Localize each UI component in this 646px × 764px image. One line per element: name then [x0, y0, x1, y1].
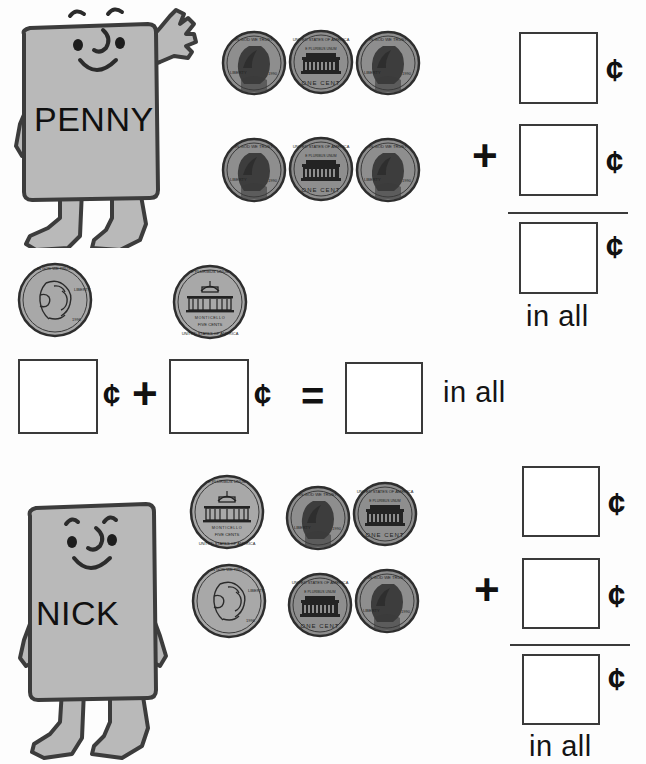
svg-text:1990: 1990: [268, 178, 278, 183]
svg-text:UNITED STATES OF AMERICA: UNITED STATES OF AMERICA: [293, 37, 350, 42]
answer-box-p2-addend-1[interactable]: [18, 359, 98, 434]
svg-text:E PLURIBUS UNUM: E PLURIBUS UNUM: [191, 269, 230, 274]
svg-text:FIVE CENTS: FIVE CENTS: [198, 322, 223, 327]
answer-box-p2-addend-2[interactable]: [169, 359, 249, 434]
cent-symbol: ¢: [606, 232, 623, 263]
cent-symbol: ¢: [608, 489, 625, 520]
coin-penny-reverse: UNITED STATES OF AMERICA E PLURIBUS UNUM…: [288, 29, 354, 99]
coin-nickel-obverse: IN GOD WE TRUST LIBERTY 1996: [190, 562, 268, 644]
cent-symbol: ¢: [608, 664, 625, 695]
svg-text:LIBERTY: LIBERTY: [364, 177, 381, 182]
in-all-label: in all: [526, 302, 589, 331]
coin-penny-reverse: UNITED STATES OF AMERICA E PLURIBUS UNUM…: [288, 136, 354, 206]
nick-eye-left: [67, 536, 77, 548]
coin-penny-obverse: IN GOD WE TRUST LIBERTY 1990: [354, 568, 420, 638]
nick-eye-right: [107, 534, 117, 546]
penny-eye-right: [115, 37, 125, 49]
coin-penny-reverse: UNITED STATES OF AMERICA E PLURIBUS UNUM…: [287, 572, 353, 642]
svg-text:LIBERTY: LIBERTY: [230, 177, 247, 182]
svg-text:IN GOD WE TRUST: IN GOD WE TRUST: [235, 37, 273, 42]
svg-text:UNITED STATES OF AMERICA: UNITED STATES OF AMERICA: [357, 489, 414, 494]
svg-text:LIBERTY: LIBERTY: [294, 525, 311, 530]
coin-penny-obverse: IN GOD WE TRUST LIBERTY 1990: [221, 30, 287, 100]
svg-text:1990: 1990: [401, 609, 411, 614]
coin-penny-reverse: UNITED STATES OF AMERICA E PLURIBUS UNUM…: [352, 481, 418, 551]
cent-symbol: ¢: [606, 147, 623, 178]
cent-symbol: ¢: [254, 380, 271, 411]
answer-box-p3-addend-2[interactable]: [522, 558, 600, 629]
svg-text:UNITED STATES OF AMERICA: UNITED STATES OF AMERICA: [292, 580, 349, 585]
svg-text:IN GOD WE TRUST: IN GOD WE TRUST: [235, 144, 273, 149]
svg-text:IN GOD WE TRUST: IN GOD WE TRUST: [369, 144, 407, 149]
svg-text:IN GOD WE TRUST: IN GOD WE TRUST: [37, 266, 74, 271]
svg-text:LIBERTY: LIBERTY: [363, 608, 380, 613]
character-penny: PENNY: [8, 4, 208, 248]
in-all-label: in all: [529, 732, 592, 761]
svg-text:1990: 1990: [402, 71, 412, 76]
character-nick: NICK: [10, 478, 200, 760]
coin-nickel-reverse: E PLURIBUS UNUM MONTICELLO FIVE CENTS UN…: [171, 263, 249, 345]
coin-penny-obverse: IN GOD WE TRUST LIBERTY 1990: [285, 485, 351, 555]
svg-text:E PLURIBUS UNUM: E PLURIBUS UNUM: [369, 499, 400, 503]
answer-box-p3-addend-1[interactable]: [522, 466, 600, 537]
coin-nickel-obverse: IN GOD WE TRUST LIBERTY 1996: [16, 261, 94, 343]
svg-text:IN GOD WE TRUST: IN GOD WE TRUST: [211, 567, 248, 572]
svg-text:E PLURIBUS UNUM: E PLURIBUS UNUM: [305, 154, 336, 158]
answer-box-p1-sum[interactable]: [519, 222, 598, 294]
penny-eye-left: [73, 39, 83, 51]
svg-text:E PLURIBUS UNUM: E PLURIBUS UNUM: [208, 479, 247, 484]
svg-text:IN GOD WE TRUST: IN GOD WE TRUST: [299, 492, 337, 497]
svg-text:1990: 1990: [402, 178, 412, 183]
svg-text:E PLURIBUS UNUM: E PLURIBUS UNUM: [305, 47, 336, 51]
equals-symbol: =: [301, 376, 324, 416]
svg-text:LIBERTY: LIBERTY: [74, 287, 91, 292]
character-name-nick: NICK: [36, 594, 119, 633]
character-name-penny: PENNY: [34, 100, 154, 139]
svg-text:ONE CENT: ONE CENT: [365, 532, 404, 538]
svg-text:MONTICELLO: MONTICELLO: [212, 526, 243, 530]
svg-text:1996: 1996: [72, 317, 82, 322]
svg-text:LIBERTY: LIBERTY: [230, 70, 247, 75]
svg-text:1996: 1996: [246, 618, 256, 623]
cent-symbol: ¢: [606, 55, 623, 86]
coin-nickel-reverse: E PLURIBUS UNUM MONTICELLO FIVE CENTS UN…: [188, 473, 266, 555]
coin-penny-obverse: IN GOD WE TRUST LIBERTY 1990: [355, 137, 421, 207]
plus-symbol: +: [472, 134, 498, 178]
svg-text:1990: 1990: [332, 526, 342, 531]
in-all-label: in all: [443, 378, 506, 407]
answer-box-p1-addend-1[interactable]: [519, 32, 598, 104]
svg-text:ONE CENT: ONE CENT: [301, 80, 340, 86]
coin-penny-obverse: IN GOD WE TRUST LIBERTY 1990: [221, 137, 287, 207]
svg-text:ONE CENT: ONE CENT: [301, 187, 340, 193]
answer-box-p2-sum[interactable]: [345, 362, 423, 434]
svg-text:UNITED STATES OF AMERICA: UNITED STATES OF AMERICA: [199, 541, 256, 546]
svg-text:UNITED STATES OF AMERICA: UNITED STATES OF AMERICA: [182, 331, 239, 336]
svg-text:LIBERTY: LIBERTY: [364, 70, 381, 75]
plus-symbol: +: [474, 568, 500, 612]
svg-text:IN GOD WE TRUST: IN GOD WE TRUST: [368, 575, 406, 580]
svg-text:E PLURIBUS UNUM: E PLURIBUS UNUM: [304, 590, 335, 594]
sum-rule: [510, 644, 630, 646]
cent-symbol: ¢: [608, 581, 625, 612]
answer-box-p3-sum[interactable]: [522, 654, 600, 725]
svg-text:ONE CENT: ONE CENT: [300, 623, 339, 629]
worksheet-page: PENNY IN GOD WE TRUST LIBERTY 1990: [0, 0, 646, 764]
svg-text:LIBERTY: LIBERTY: [248, 588, 265, 593]
svg-text:FIVE CENTS: FIVE CENTS: [215, 532, 240, 537]
sum-rule: [508, 212, 628, 214]
svg-text:1990: 1990: [268, 71, 278, 76]
cent-symbol: ¢: [103, 380, 120, 411]
plus-symbol: +: [132, 372, 158, 416]
coin-penny-obverse: IN GOD WE TRUST LIBERTY 1990: [355, 30, 421, 100]
svg-text:UNITED STATES OF AMERICA: UNITED STATES OF AMERICA: [293, 144, 350, 149]
svg-text:IN GOD WE TRUST: IN GOD WE TRUST: [369, 37, 407, 42]
svg-text:MONTICELLO: MONTICELLO: [195, 316, 226, 320]
answer-box-p1-addend-2[interactable]: [519, 124, 598, 196]
